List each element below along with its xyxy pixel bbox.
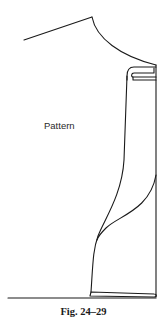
- figure-caption: Fig. 24–29: [0, 306, 167, 317]
- bottom-hem-fold: [90, 292, 156, 297]
- sweep-curve: [97, 175, 156, 240]
- shoulder-line: [24, 17, 92, 40]
- top-fold-inner: [132, 68, 156, 77]
- inner-edge-curve: [91, 76, 127, 292]
- armhole-curve: [92, 17, 156, 65]
- pattern-label: Pattern: [44, 120, 75, 131]
- pattern-drawing: [0, 0, 167, 322]
